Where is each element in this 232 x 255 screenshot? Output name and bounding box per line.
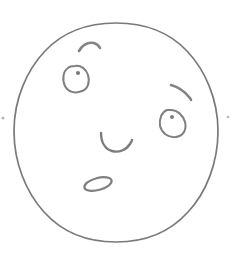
sketch-canvas: Hand-drawn face sketch round face A simp… — [0, 0, 232, 255]
nose — [101, 133, 132, 152]
face-sketch-drawing — [0, 0, 232, 255]
mouth-group — [83, 175, 113, 194]
paper-speck-left-icon — [1, 116, 4, 119]
right-eyebrow — [171, 85, 191, 100]
right-eye — [160, 110, 186, 137]
left-pupil — [76, 71, 80, 75]
paper-speck-right-icon — [227, 116, 230, 119]
left-eye — [63, 66, 88, 93]
left-eyebrow — [79, 43, 100, 51]
right-pupil — [170, 115, 174, 119]
mouth — [83, 175, 113, 194]
face-outline — [14, 23, 218, 242]
